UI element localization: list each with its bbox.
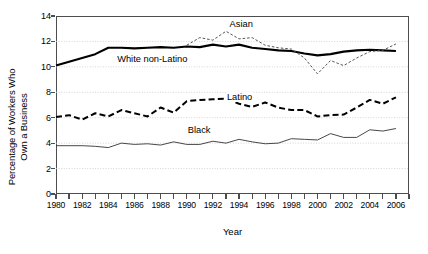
series-label-latino: Latino	[226, 92, 253, 102]
x-tick-mark	[108, 194, 109, 199]
x-tick-mark	[317, 194, 318, 199]
x-tick-mark	[395, 194, 396, 199]
x-tick-mark	[304, 194, 305, 199]
y-tick-mark	[51, 117, 55, 118]
x-tick-mark	[121, 194, 122, 199]
series-line-white-non-latino	[56, 45, 396, 66]
series-label-white-non-latino: White non-Latino	[116, 54, 188, 64]
y-tick-mark	[51, 15, 55, 16]
chart-figure: Percentage of Workers Who Own a Business…	[0, 0, 428, 254]
x-tick-mark	[199, 194, 200, 199]
x-axis-title: Year	[55, 226, 410, 237]
y-tick-mark	[51, 92, 55, 93]
x-tick-mark	[238, 194, 239, 199]
plot-area: White non-LatinoAsianLatinoBlack	[56, 16, 409, 194]
y-tick-mark	[51, 41, 55, 42]
x-tick-mark	[212, 194, 213, 199]
x-tick-mark	[369, 194, 370, 199]
x-tick-mark	[134, 194, 135, 199]
x-tick-mark	[330, 194, 331, 199]
x-tick-mark	[55, 194, 56, 199]
x-tick-mark	[278, 194, 279, 199]
x-tick-mark	[173, 194, 174, 199]
series-label-black: Black	[187, 125, 212, 135]
series-line-black	[56, 129, 396, 148]
x-tick-mark	[343, 194, 344, 199]
y-tick-mark	[51, 193, 55, 194]
x-tick-mark	[291, 194, 292, 199]
x-tick-mark	[68, 194, 69, 199]
x-tick-mark	[252, 194, 253, 199]
x-tick-mark	[82, 194, 83, 199]
y-tick-mark	[51, 66, 55, 67]
x-tick-mark	[147, 194, 148, 199]
x-tick-mark	[160, 194, 161, 199]
series-label-asian: Asian	[229, 19, 254, 29]
x-tick-mark	[356, 194, 357, 199]
x-tick-mark	[265, 194, 266, 199]
x-tick-mark	[95, 194, 96, 199]
x-tick-mark	[382, 194, 383, 199]
x-axis-tick-labels: 1980198219841986198819901992199419961998…	[56, 200, 409, 214]
y-axis-tick-marks	[0, 16, 56, 194]
y-tick-mark	[51, 143, 55, 144]
x-tick-label: 2006	[376, 200, 416, 210]
series-line-asian	[187, 31, 396, 74]
y-tick-mark	[51, 168, 55, 169]
x-tick-mark	[186, 194, 187, 199]
x-tick-mark	[225, 194, 226, 199]
series-lines	[56, 16, 409, 194]
x-tick-mark	[408, 194, 409, 199]
